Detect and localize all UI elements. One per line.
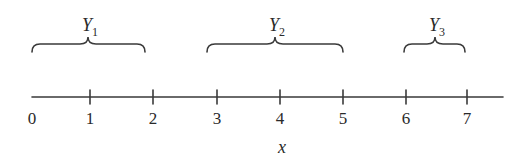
tick-label: 6 [402,109,411,128]
number-line-axis: 01234567 [28,90,503,128]
number-line-diagram: Y1Y2Y3 01234567 x [0,0,515,163]
tick-label: 1 [86,109,95,128]
brace-label-1: Y1 [82,15,98,39]
brace-2 [207,37,343,52]
brace-label-subscript: 2 [279,25,285,39]
brace-1 [32,37,145,52]
tick-label: 4 [276,109,285,128]
tick-label: 2 [149,109,158,128]
brace-label-2: Y2 [269,15,285,39]
brace-label-3: Y3 [429,15,445,39]
tick-label: 3 [213,109,222,128]
tick-label: 7 [463,109,472,128]
brace-label-subscript: 3 [439,25,445,39]
brace-label-subscript: 1 [92,25,98,39]
axis-label-x: x [277,137,286,157]
brace-group: Y1Y2Y3 [32,15,465,52]
tick-label: 5 [339,109,348,128]
brace-3 [404,37,465,52]
tick-label: 0 [28,109,37,128]
